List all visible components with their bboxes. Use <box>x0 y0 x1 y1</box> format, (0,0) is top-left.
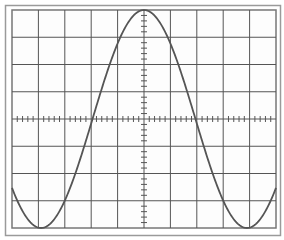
oscilloscope-chart <box>0 0 284 240</box>
